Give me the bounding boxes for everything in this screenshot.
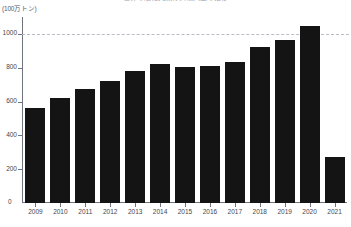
- x-axis-tick: [210, 203, 211, 207]
- bar: [325, 157, 345, 203]
- y-axis-tick: [18, 169, 22, 170]
- bar: [225, 62, 245, 203]
- x-axis-tick-label: 2014: [148, 209, 173, 216]
- bar: [300, 26, 320, 203]
- x-axis-tick: [285, 203, 286, 207]
- x-axis-tick: [335, 203, 336, 207]
- bar: [175, 67, 195, 203]
- x-axis-tick-label: 2015: [173, 209, 198, 216]
- x-axis-tick-label: 2019: [272, 209, 297, 216]
- x-axis-tick: [310, 203, 311, 207]
- x-axis-tick-label: 2016: [197, 209, 222, 216]
- x-axis-tick-label: 2017: [222, 209, 247, 216]
- y-axis-unit-label: (100万トン): [2, 3, 37, 13]
- y-axis-tick-label: 400: [0, 132, 17, 139]
- bar: [200, 66, 220, 203]
- chart-title: 世界の液化天然ガス輸入量の推移: [0, 0, 351, 2]
- x-axis-tick: [160, 203, 161, 207]
- bar: [125, 71, 145, 203]
- y-axis-tick-label: 800: [0, 64, 17, 71]
- y-axis-tick-label: 200: [0, 166, 17, 173]
- y-axis-tick: [18, 68, 22, 69]
- x-axis-tick-label: 2018: [247, 209, 272, 216]
- x-axis-tick: [135, 203, 136, 207]
- bar: [25, 108, 45, 203]
- x-axis-tick: [35, 203, 36, 207]
- x-axis-tick-label: 2009: [23, 209, 48, 216]
- x-axis-tick-label: 2020: [297, 209, 322, 216]
- y-axis-zero-label: 0: [8, 199, 12, 206]
- bar-chart: 世界の液化天然ガス輸入量の推移 (100万トン) 200400600800100…: [0, 0, 351, 227]
- x-axis-tick-label: 2021: [322, 209, 347, 216]
- x-axis-tick: [110, 203, 111, 207]
- x-axis-tick-label: 2013: [123, 209, 148, 216]
- x-axis-tick: [235, 203, 236, 207]
- bar: [50, 98, 70, 203]
- bar: [150, 64, 170, 203]
- bar: [100, 81, 120, 203]
- x-axis-tick-label: 2010: [48, 209, 73, 216]
- y-axis-tick-label: 1000: [0, 30, 17, 37]
- bars-layer: [23, 17, 347, 203]
- bar: [250, 47, 270, 203]
- bar: [275, 40, 295, 203]
- x-axis-tick: [60, 203, 61, 207]
- x-axis-tick-label: 2012: [98, 209, 123, 216]
- x-axis-tick: [260, 203, 261, 207]
- y-axis-tick: [18, 34, 22, 35]
- y-axis-tick-label: 600: [0, 98, 17, 105]
- y-axis-tick: [18, 102, 22, 103]
- x-axis-tick-label: 2011: [73, 209, 98, 216]
- x-axis-tick: [85, 203, 86, 207]
- x-axis-tick: [185, 203, 186, 207]
- bar: [75, 89, 95, 203]
- y-axis-tick: [18, 135, 22, 136]
